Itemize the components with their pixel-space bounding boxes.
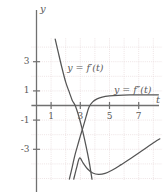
- curve-label-f-double-prime: y = f″(t): [114, 85, 152, 95]
- curves-group: [55, 39, 160, 179]
- curve-f-double-prime: [69, 95, 158, 179]
- x-axis-label: t: [156, 95, 160, 105]
- y-tick-label-neg3: -3: [21, 145, 30, 154]
- y-axis-label: y: [40, 4, 46, 14]
- x-tick-label-1: 1: [48, 112, 54, 121]
- x-tick-label-3: 3: [77, 112, 83, 121]
- x-tick-label-7: 7: [136, 112, 142, 121]
- plot-canvas: [0, 0, 167, 194]
- curve-lower-branch: [74, 139, 160, 179]
- y-tick-label-neg1: -1: [21, 116, 30, 125]
- curve-label-f-prime: y = f′(t): [67, 63, 103, 73]
- x-tick-label-5: 5: [107, 112, 113, 121]
- derivative-graph-figure: 135731-1-3yty = f′(t)y = f″(t): [0, 0, 167, 194]
- grid-lines: [31, 38, 162, 180]
- y-tick-label-1: 1: [24, 86, 30, 95]
- y-tick-label-3: 3: [24, 57, 30, 66]
